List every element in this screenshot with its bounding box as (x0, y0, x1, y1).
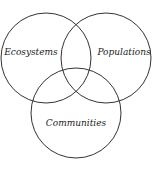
label-communities: Communities (46, 118, 107, 128)
circle-communities (31, 68, 121, 158)
circle-ecosystems (1, 13, 91, 103)
label-populations: Populations (96, 47, 151, 57)
label-ecosystems: Ecosystems (3, 47, 58, 57)
venn-diagram: Ecosystems Populations Communities (0, 0, 160, 171)
circle-populations (61, 13, 151, 103)
